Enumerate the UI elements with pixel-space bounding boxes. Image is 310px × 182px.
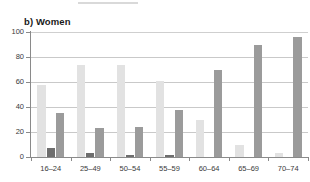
bar-series-2-50-54 [126,155,134,158]
bar-series-3-65-69 [254,45,262,158]
x-axis-tick-label: 70–74 [268,165,308,173]
bar-series-3-55-59 [175,110,183,157]
x-axis-tick [71,157,72,161]
gridline [31,32,308,33]
bar-series-3-60-64 [214,70,222,158]
x-axis-tick [150,157,151,161]
y-axis-tick-label: 40 [2,103,24,111]
y-axis-labels: 020406080100 [0,0,24,182]
bar-series-3-25-49 [95,128,103,157]
bar-series-3-50-54 [135,127,143,157]
plot-area [31,32,308,157]
x-axis-tick [308,157,309,161]
gridline [31,57,308,58]
gridline [31,107,308,108]
bar-series-2-55-59 [165,155,173,157]
y-axis-tick-label: 0 [2,153,24,161]
bar-series-1-16-24 [37,85,45,158]
bar-series-2-25-49 [86,153,94,157]
chart-figure: b) Women 020406080100 16–2425–4950–5455–… [0,0,310,182]
x-axis-tick [189,157,190,161]
y-axis-tick-label: 60 [2,78,24,86]
x-axis-tick-label: 55–59 [150,165,190,173]
bar-series-1-60-64 [196,120,204,158]
bar-series-1-70-74 [275,153,283,157]
bar-series-1-55-59 [156,81,164,157]
x-axis-line [31,157,308,158]
bar-series-1-65-69 [235,145,243,157]
x-axis-tick-label: 50–54 [110,165,150,173]
x-axis-tick-label: 60–64 [189,165,229,173]
bar-series-1-25-49 [77,65,85,158]
x-axis-tick [31,157,32,161]
y-axis-tick-label: 20 [2,128,24,136]
x-axis-tick [110,157,111,161]
x-axis-tick-label: 65–69 [229,165,269,173]
bar-series-1-50-54 [117,65,125,158]
y-axis-tick-label: 100 [2,28,24,36]
x-axis-tick [229,157,230,161]
x-axis-tick-label: 16–24 [31,165,71,173]
top-rule-artifact [78,2,138,4]
bar-series-3-70-74 [293,37,301,157]
bar-series-3-16-24 [56,113,64,157]
bar-series-2-16-24 [47,148,55,157]
y-axis-tick-label: 80 [2,53,24,61]
x-axis-tick [268,157,269,161]
gridline [31,82,308,83]
x-axis-tick-label: 25–49 [71,165,111,173]
gridline [31,132,308,133]
panel-title: b) Women [24,16,71,27]
